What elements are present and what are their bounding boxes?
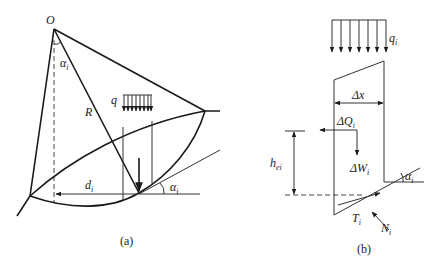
label-distance: di: [85, 178, 93, 194]
label-radius: R: [84, 105, 93, 119]
label-base-angle: αi: [405, 169, 414, 185]
label-weight: ΔWi: [349, 161, 369, 177]
label-shear-force: Ti: [352, 211, 361, 227]
figure-b: qi Δx ΔQi hei ΔWi αi Ti Ni (b): [270, 20, 424, 256]
caption-a: (a): [120, 234, 133, 248]
radius-line-r: [54, 29, 139, 193]
figure-a: O αi R q di αi (a): [17, 13, 220, 248]
label-base-angle: αi: [170, 180, 179, 196]
slope-surface: [30, 111, 220, 196]
distributed-load-arrows: [332, 20, 386, 52]
label-normal-force: Ni: [380, 221, 391, 237]
label-center-o: O: [46, 13, 55, 27]
extension-line: [17, 196, 30, 216]
caption-b: (b): [357, 242, 371, 256]
label-horizontal-force: ΔQi: [336, 114, 355, 130]
label-center-angle: αi: [60, 56, 69, 72]
distributed-load-arrows: [124, 95, 151, 111]
base-angle-arc: [160, 183, 164, 194]
radius-line-right: [54, 29, 205, 111]
tangent-line: [139, 150, 220, 194]
label-height: hei: [270, 156, 282, 172]
radius-line-left: [30, 29, 54, 196]
slope-stability-diagram: O αi R q di αi (a): [0, 0, 437, 265]
label-load-q: q: [111, 93, 117, 107]
slip-circle: [30, 111, 205, 206]
label-load-qi: qi: [389, 31, 397, 47]
label-width: Δx: [351, 88, 365, 102]
